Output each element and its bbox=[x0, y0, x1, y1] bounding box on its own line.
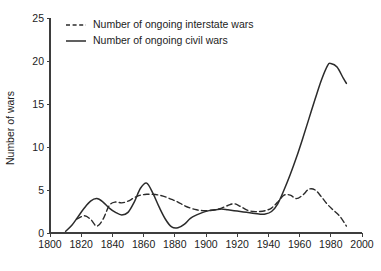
y-tick-label: 5 bbox=[38, 184, 44, 196]
x-tick-label: 1940 bbox=[257, 238, 281, 250]
x-tick-label: 1860 bbox=[132, 238, 156, 250]
y-tick-label: 0 bbox=[38, 227, 44, 239]
wars-line-chart: 0510152025 18001820184018601880190019201… bbox=[0, 0, 381, 271]
x-tick-label: 1980 bbox=[319, 238, 343, 250]
x-tick-label: 1840 bbox=[101, 238, 125, 250]
x-tick-label: 2000 bbox=[350, 238, 374, 250]
chart-container: 0510152025 18001820184018601880190019201… bbox=[0, 0, 381, 271]
y-tick-label: 20 bbox=[32, 55, 44, 67]
x-tick-label: 1920 bbox=[226, 238, 250, 250]
x-tick-label: 1880 bbox=[163, 238, 187, 250]
y-tick-label: 25 bbox=[32, 12, 44, 24]
x-tick-label: 1960 bbox=[288, 238, 312, 250]
legend-label-interstate: Number of ongoing interstate wars bbox=[93, 18, 254, 30]
x-tick-label: 1800 bbox=[38, 238, 62, 250]
x-tick-label: 1900 bbox=[194, 238, 218, 250]
legend-label-civil: Number of ongoing civil wars bbox=[93, 34, 228, 46]
y-tick-label: 15 bbox=[32, 98, 44, 110]
x-tick-label: 1820 bbox=[70, 238, 94, 250]
y-axis-title: Number of wars bbox=[4, 91, 16, 165]
y-tick-label: 10 bbox=[32, 141, 44, 153]
